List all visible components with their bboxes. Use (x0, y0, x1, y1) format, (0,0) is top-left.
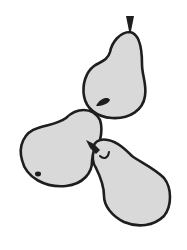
pears-drawing (0, 0, 187, 250)
blossom-end-icon (35, 172, 41, 177)
pear-bottom-right (86, 139, 170, 225)
stem-icon (126, 16, 134, 31)
pear-top-right (83, 16, 145, 118)
pear-illustration (0, 0, 187, 250)
